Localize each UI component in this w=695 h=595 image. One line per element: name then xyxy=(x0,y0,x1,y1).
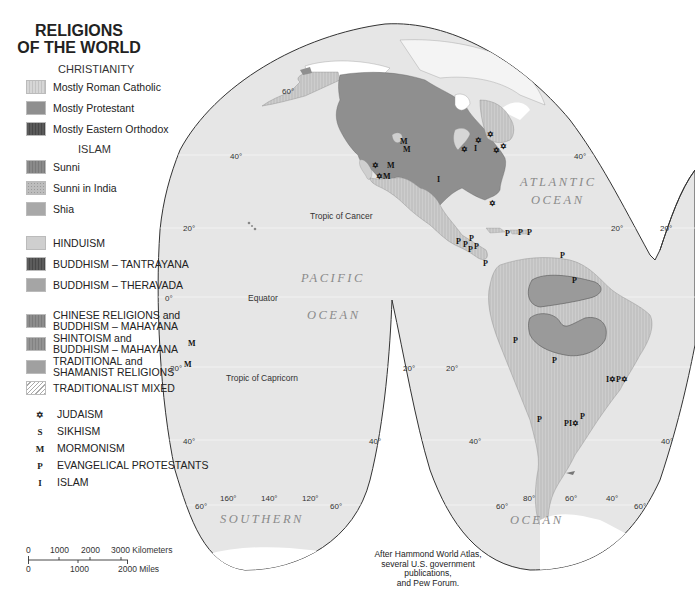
degree-label: 40° xyxy=(606,494,618,503)
theravada-swatch xyxy=(26,278,46,292)
legend-item-buddhism-tantrayana: BUDDHISM – TANTRAYANA xyxy=(26,257,189,271)
legend-label: HINDUISM xyxy=(53,238,105,249)
marker-mormon: M xyxy=(403,145,411,154)
legend-label: Sunni xyxy=(53,162,80,173)
degree-label: 40° xyxy=(183,437,195,446)
scale-mi-1000: 1000 xyxy=(70,564,89,574)
marker-evangelical: P xyxy=(505,229,510,238)
marker-judaism-mormon: ✡M xyxy=(376,172,391,181)
legend-label: Mostly Roman Catholic xyxy=(53,82,161,93)
ocean-label-atlantic-ocean: OCEAN xyxy=(531,193,584,208)
legend-label: TRADITIONAL andSHAMANIST RELIGIONS xyxy=(53,356,174,378)
marker-judaism-islam: ✡ xyxy=(493,146,500,155)
star-of-david-icon: ✡ xyxy=(30,410,50,420)
legend-label: JUDAISM xyxy=(57,409,103,420)
protestant-swatch xyxy=(26,101,46,115)
credit-line-2: several U.S. government publications, xyxy=(358,560,498,579)
marker-evangelical: P xyxy=(580,412,585,421)
legend-symbol-sikhism: S SIKHISM xyxy=(30,426,100,437)
legend-label: Sunni in India xyxy=(53,183,117,194)
title-line-1: RELIGIONS xyxy=(14,22,144,39)
legend-label-line2: BUDDHISM – MAHAYANA xyxy=(53,320,178,332)
degree-label: 20° xyxy=(660,224,672,233)
legend-label: CHINESE RELIGIONS andBUDDHISM – MAHAYANA xyxy=(53,310,180,332)
scale-km-3000: 3000 Kilometers xyxy=(111,545,172,555)
scale-mi-0: 0 xyxy=(26,564,31,574)
degree-label: 60° xyxy=(496,502,508,511)
scale-km-2000: 2000 xyxy=(81,545,100,555)
scale-bar: 0 1000 2000 3000 Kilometers 0 1000 2000 … xyxy=(0,545,175,575)
legend-item-chinese-religions: CHINESE RELIGIONS andBUDDHISM – MAHAYANA xyxy=(26,310,180,332)
legend-panel: RELIGIONS OF THE WORLD CHRISTIANITY Most… xyxy=(0,0,175,595)
shia-swatch xyxy=(26,202,46,216)
legend-symbol-islam: I ISLAM xyxy=(30,477,89,488)
degree-label: 80° xyxy=(523,494,535,503)
legend-symbol-evangelical: P EVANGELICAL PROTESTANTS xyxy=(30,460,209,471)
legend-label: MORMONISM xyxy=(57,443,125,454)
map-title: RELIGIONS OF THE WORLD xyxy=(14,22,144,56)
marker-mormon: M xyxy=(387,161,395,170)
marker-evangelical: P xyxy=(468,245,473,254)
degree-label: 40° xyxy=(469,437,481,446)
sunni-swatch xyxy=(26,160,46,174)
legend-item-sunni-india: Sunni in India xyxy=(26,181,117,195)
legend-symbol-mormonism: M MORMONISM xyxy=(30,443,125,454)
title-line-2: OF THE WORLD xyxy=(14,39,144,56)
marker-evangelical: P xyxy=(518,228,523,237)
legend-label: Shia xyxy=(53,204,74,215)
map-credit: After Hammond World Atlas, several U.S. … xyxy=(358,550,498,588)
equator-label: Equator xyxy=(248,293,278,303)
legend-label: SIKHISM xyxy=(57,426,100,437)
marker-evangelical: P xyxy=(527,228,532,237)
marker-judaism: ✡ xyxy=(461,145,468,154)
mormonism-m-icon: M xyxy=(30,444,50,454)
legend-item-buddhism-theravada: BUDDHISM – THERAVADA xyxy=(26,278,183,292)
degree-label: 40° xyxy=(661,437,673,446)
degree-label: 20° xyxy=(446,364,458,373)
marker-judaism: ✡ xyxy=(487,130,494,139)
credit-line-3: and Pew Forum. xyxy=(358,579,498,589)
ocean-label-pacific: PACIFIC xyxy=(301,271,365,286)
traditionalist-mixed-swatch xyxy=(26,381,46,395)
marker-evangelical: P xyxy=(483,259,488,268)
marker-judaism: ✡ xyxy=(489,199,496,208)
marker-evangelical: P xyxy=(537,415,542,424)
tropic-of-capricorn-label: Tropic of Capricorn xyxy=(226,373,298,383)
marker-islam: I xyxy=(474,144,477,153)
eastern-orthodox-swatch xyxy=(26,122,46,136)
evangelical-p-icon: P xyxy=(30,461,50,471)
marker-islam: I xyxy=(437,175,440,184)
marker-evangelical: P xyxy=(572,276,577,285)
marker-evangelical: P xyxy=(552,356,557,365)
marker-mormon: M xyxy=(184,360,192,369)
tropic-of-cancer-label: Tropic of Cancer xyxy=(310,211,373,221)
legend-label: BUDDHISM – THERAVADA xyxy=(53,280,183,291)
legend-label: Mostly Protestant xyxy=(53,103,134,114)
marker-mormon: M xyxy=(188,339,196,348)
marker-islam-judaism-evangelical: I✡P✡ xyxy=(606,375,628,384)
legend-symbol-judaism: ✡ JUDAISM xyxy=(30,409,103,420)
traditional-swatch xyxy=(26,360,46,374)
legend-item-roman-catholic: Mostly Roman Catholic xyxy=(26,80,161,94)
legend-item-eastern-orthodox: Mostly Eastern Orthodox xyxy=(26,122,169,136)
degree-label: 140° xyxy=(261,494,278,503)
legend-label: SHINTOISM andBUDDHISM – MAHAYANA xyxy=(53,333,178,355)
degree-label: 60° xyxy=(634,502,646,511)
sikhism-s-icon: S xyxy=(30,427,50,437)
legend-label: Mostly Eastern Orthodox xyxy=(53,124,169,135)
ocean-label-pacific-ocean: OCEAN xyxy=(307,308,360,323)
degree-label: 0° xyxy=(165,294,173,303)
tantrayana-swatch xyxy=(26,257,46,271)
degree-label: 40° xyxy=(369,437,381,446)
marker-evangelical: P xyxy=(513,336,518,345)
legend-item-shia: Shia xyxy=(26,202,74,216)
degree-label: 60° xyxy=(195,502,207,511)
marker-evangelical: P xyxy=(474,242,479,251)
degree-label: 160° xyxy=(220,494,237,503)
legend-label-line2: BUDDHISM – MAHAYANA xyxy=(53,343,178,355)
legend-label: TRADITIONALIST MIXED xyxy=(53,383,175,394)
scale-km-0: 0 xyxy=(26,545,31,555)
ocean-label-atlantic: ATLANTIC xyxy=(520,175,597,190)
degree-label: 120° xyxy=(302,494,319,503)
degree-label: 60° xyxy=(565,494,577,503)
